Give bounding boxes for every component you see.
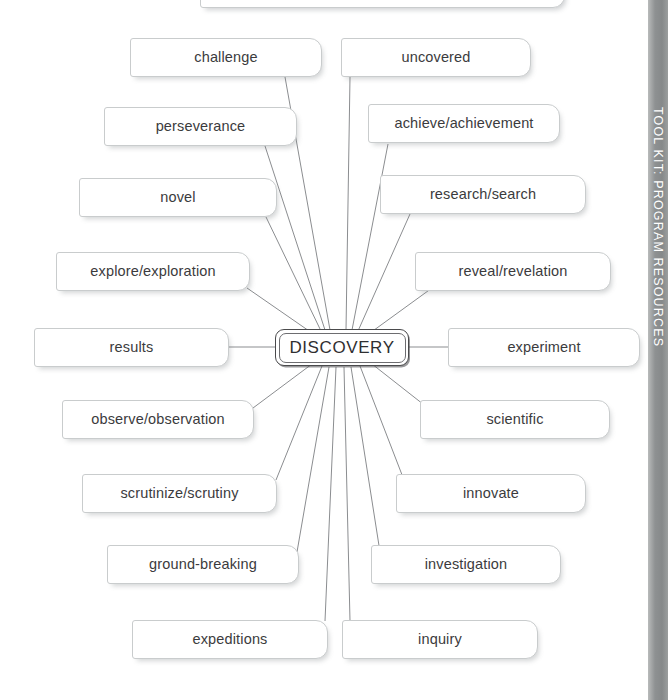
word-node-label: investigation — [425, 557, 508, 572]
connector-line — [346, 77, 350, 330]
word-node[interactable]: achieve/achievement — [368, 104, 560, 143]
word-node-label: perseverance — [156, 119, 246, 134]
word-node[interactable]: investigation — [371, 545, 561, 584]
word-node-label: scientific — [486, 412, 543, 427]
connector-line — [370, 288, 432, 333]
connector-line — [276, 366, 322, 480]
word-node[interactable]: research/search — [380, 175, 586, 214]
word-node[interactable]: challenge — [130, 38, 322, 77]
connector-line — [352, 144, 388, 330]
word-node[interactable]: scrutinize/scrutiny — [82, 474, 277, 513]
word-node-label: explore/exploration — [90, 264, 215, 279]
word-node-label: scrutinize/scrutiny — [120, 486, 238, 501]
word-web-page: challengeuncoveredperseveranceachieve/ac… — [0, 0, 668, 700]
word-node[interactable]: explore/exploration — [56, 252, 250, 291]
word-node[interactable]: uncovered — [341, 38, 531, 77]
word-node-label: achieve/achievement — [394, 116, 533, 131]
clipped-top-node — [200, 0, 565, 8]
word-node-label: novel — [160, 190, 195, 205]
word-node[interactable]: innovate — [396, 474, 586, 513]
connector-line — [253, 364, 312, 408]
word-node[interactable]: novel — [79, 178, 277, 217]
connector-line — [247, 288, 312, 333]
connector-line — [351, 367, 380, 552]
word-node[interactable]: expeditions — [132, 620, 328, 659]
connector-line — [344, 367, 350, 621]
section-tab: TOOL KIT: PROGRAM RESOURCES — [648, 0, 668, 700]
word-node-label: innovate — [463, 486, 519, 501]
word-node-label: experiment — [507, 340, 580, 355]
connector-line — [325, 367, 336, 621]
word-node-label: uncovered — [401, 50, 470, 65]
word-node-label: observe/observation — [91, 412, 224, 427]
word-node[interactable]: experiment — [448, 328, 640, 367]
word-node-label: reveal/revelation — [459, 264, 568, 279]
word-node-label: ground-breaking — [149, 557, 257, 572]
word-node[interactable]: ground-breaking — [107, 545, 299, 584]
connector-line — [297, 367, 329, 552]
connector-line — [265, 146, 325, 330]
center-node-discovery[interactable]: DISCOVERY — [275, 329, 409, 366]
connector-line — [360, 366, 404, 480]
word-node-label: inquiry — [418, 632, 462, 647]
word-node[interactable]: scientific — [420, 400, 610, 439]
word-node[interactable]: inquiry — [342, 620, 538, 659]
connector-line — [358, 214, 410, 331]
word-node-label: research/search — [430, 187, 536, 202]
word-node[interactable]: reveal/revelation — [415, 252, 611, 291]
word-node-label: expeditions — [192, 632, 267, 647]
word-node-label: challenge — [194, 50, 257, 65]
word-node-label: results — [110, 340, 154, 355]
center-node-label: DISCOVERY — [289, 338, 394, 358]
word-node[interactable]: perseverance — [104, 107, 297, 146]
word-node[interactable]: observe/observation — [62, 400, 254, 439]
section-tab-label: TOOL KIT: PROGRAM RESOURCES — [651, 107, 665, 347]
word-node[interactable]: results — [34, 328, 229, 367]
